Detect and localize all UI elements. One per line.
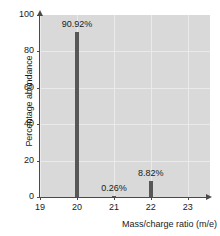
gridline-vertical — [188, 15, 189, 197]
x-tick-label: 21 — [109, 202, 119, 212]
x-tick-mark — [77, 197, 78, 200]
bar — [149, 181, 153, 197]
y-tick-label: 20 — [24, 156, 34, 165]
y-tick-label: 100 — [19, 10, 34, 19]
bar-value-label: 90.92% — [62, 19, 93, 29]
x-tick-label: 19 — [35, 202, 45, 212]
x-axis-line — [39, 197, 206, 198]
x-tick-label: 22 — [146, 202, 156, 212]
plot-area: 90.92%0.26%8.82% — [40, 15, 210, 197]
x-tick-mark — [114, 197, 115, 200]
gridline-horizontal — [40, 51, 210, 52]
y-axis-arrow-icon — [37, 10, 43, 16]
gridline-horizontal — [40, 88, 210, 89]
bar — [75, 32, 79, 197]
x-tick-mark — [188, 197, 189, 200]
y-tick-label: 80 — [24, 46, 34, 55]
y-axis-line — [39, 15, 40, 198]
x-axis-title: Mass/charge ratio (m/e) — [0, 219, 217, 229]
gridline-horizontal — [40, 161, 210, 162]
x-tick-label: 23 — [183, 202, 193, 212]
gridline-vertical — [114, 15, 115, 197]
x-tick-mark — [40, 197, 41, 200]
x-tick-label: 20 — [72, 202, 82, 212]
gridline-vertical — [40, 15, 41, 197]
mass-spectrum-chart: Percentage abundance 020406080100 90.92%… — [0, 0, 220, 236]
bar-value-label: 0.26% — [101, 183, 127, 193]
x-axis-ticks: 1920212223 — [0, 200, 220, 214]
gridline-horizontal — [40, 124, 210, 125]
y-tick-label: 60 — [24, 83, 34, 92]
y-tick-label: 40 — [24, 119, 34, 128]
bar-value-label: 8.82% — [138, 168, 164, 178]
x-tick-mark — [151, 197, 152, 200]
